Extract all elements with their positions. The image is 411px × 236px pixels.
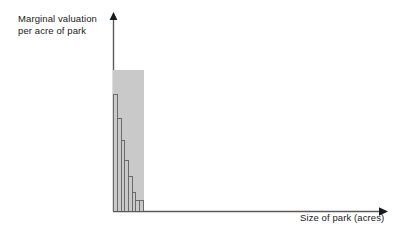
bar-series: [113, 70, 144, 211]
bar-8: [139, 200, 144, 211]
y-axis-label-line2: per acre of park: [18, 25, 128, 37]
chart-figure: Marginal valuation per acre of park Size…: [0, 0, 411, 236]
y-axis-label-line1: Marginal valuation: [18, 13, 128, 25]
plot-area: [113, 60, 353, 211]
x-axis-label: Size of park (acres): [300, 212, 384, 224]
y-axis-label: Marginal valuation per acre of park: [18, 13, 128, 36]
